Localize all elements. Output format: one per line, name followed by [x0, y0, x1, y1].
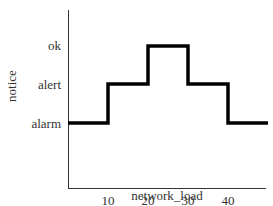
y-tick-label-ok: ok	[48, 38, 62, 53]
y-tick-labels: ok alert alarm	[31, 38, 61, 131]
x-tick-label-40: 40	[222, 193, 235, 206]
y-tick-label-alert: alert	[38, 77, 61, 92]
step-chart: ok alert alarm 10 20 30 40 network_load …	[0, 0, 273, 206]
y-tick-label-alarm: alarm	[31, 116, 61, 131]
y-axis-label: notice	[4, 70, 19, 102]
x-tick-label-10: 10	[102, 193, 115, 206]
step-series-line	[68, 46, 268, 123]
x-axis-label: network_load	[131, 188, 203, 203]
